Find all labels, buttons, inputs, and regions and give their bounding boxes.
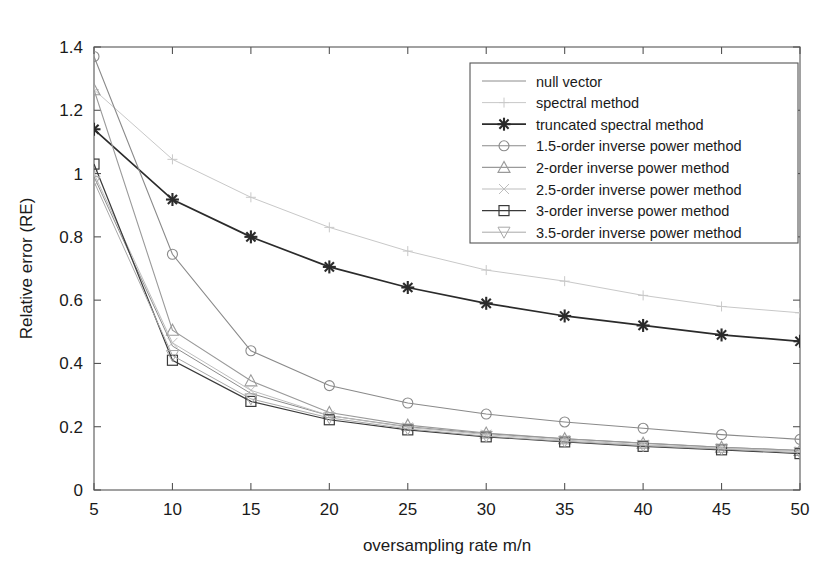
x-tick-label: 20 xyxy=(320,500,339,519)
marker-asterisk xyxy=(323,260,336,273)
x-tick-label: 50 xyxy=(791,500,810,519)
y-axis-label: Relative error (RE) xyxy=(17,198,36,340)
x-tick-label: 40 xyxy=(634,500,653,519)
x-tick-label: 35 xyxy=(555,500,574,519)
marker-plus xyxy=(481,265,491,275)
legend-label: spectral method xyxy=(536,95,639,111)
y-tick-label: 1.2 xyxy=(59,101,83,120)
marker-plus xyxy=(324,222,334,232)
legend-label: 3.5-order inverse power method xyxy=(536,225,742,241)
legend-label: truncated spectral method xyxy=(536,117,704,133)
marker-asterisk xyxy=(558,309,571,322)
y-tick-label: 1 xyxy=(74,165,83,184)
marker-plus xyxy=(795,308,805,318)
y-tick-label: 1.4 xyxy=(59,38,83,57)
y-tick-label: 0 xyxy=(74,481,83,500)
chart-figure: 510152025303540455000.20.40.60.811.21.4o… xyxy=(0,0,834,575)
marker-asterisk xyxy=(715,328,728,341)
x-tick-label: 30 xyxy=(477,500,496,519)
x-tick-label: 15 xyxy=(241,500,260,519)
y-tick-label: 0.4 xyxy=(59,354,83,373)
marker-asterisk xyxy=(244,230,257,243)
relative-error-line-chart: 510152025303540455000.20.40.60.811.21.4o… xyxy=(0,0,834,575)
legend: null vectorspectral methodtruncated spec… xyxy=(470,63,798,243)
legend-label: 2.5-order inverse power method xyxy=(536,182,742,198)
marker-asterisk xyxy=(480,297,493,310)
legend-label: null vector xyxy=(536,74,602,90)
x-tick-label: 10 xyxy=(163,500,182,519)
marker-asterisk xyxy=(794,335,807,348)
x-tick-label: 5 xyxy=(89,500,98,519)
marker-plus xyxy=(403,246,413,256)
marker-asterisk xyxy=(166,193,179,206)
x-tick-label: 25 xyxy=(398,500,417,519)
marker-plus xyxy=(717,301,727,311)
y-tick-label: 0.2 xyxy=(59,418,83,437)
marker-asterisk xyxy=(401,281,414,294)
x-tick-label: 45 xyxy=(712,500,731,519)
marker-asterisk xyxy=(637,319,650,332)
legend-label: 1.5-order inverse power method xyxy=(536,138,742,154)
x-axis-label: oversampling rate m/n xyxy=(363,536,531,555)
legend-label: 3-order inverse power method xyxy=(536,203,729,219)
legend-label: 2-order inverse power method xyxy=(536,160,729,176)
marker-asterisk xyxy=(88,123,101,136)
marker-plus xyxy=(638,290,648,300)
marker-plus xyxy=(246,192,256,202)
marker-asterisk xyxy=(498,118,511,131)
marker-plus xyxy=(560,276,570,286)
y-tick-label: 0.8 xyxy=(59,228,83,247)
y-tick-label: 0.6 xyxy=(59,291,83,310)
